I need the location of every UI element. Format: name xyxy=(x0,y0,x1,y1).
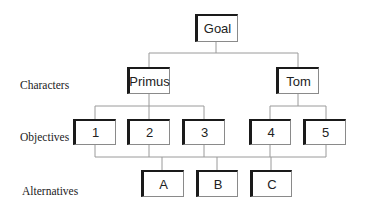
node-alternative-c: C xyxy=(250,170,292,197)
row-label-characters: Characters xyxy=(20,79,69,91)
node-objective-4: 4 xyxy=(249,119,291,145)
row-label-alternatives: Alternatives xyxy=(22,185,78,197)
node-goal: Goal xyxy=(195,14,238,42)
node-objective-5: 5 xyxy=(303,119,346,145)
node-tom: Tom xyxy=(276,67,319,94)
node-objective-1: 1 xyxy=(73,119,116,145)
node-alternative-b: B xyxy=(196,170,238,197)
hierarchy-diagram: Characters Objectives Alternatives Goal … xyxy=(0,0,365,210)
row-label-objectives: Objectives xyxy=(20,131,69,143)
node-alternative-a: A xyxy=(141,170,184,197)
node-objective-3: 3 xyxy=(182,119,225,145)
node-objective-2: 2 xyxy=(127,119,170,145)
node-primus: Primus xyxy=(127,67,170,94)
